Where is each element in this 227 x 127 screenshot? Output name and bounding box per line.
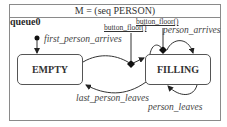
choice-diamond-1 (127, 60, 135, 68)
initial-state-dot (35, 36, 40, 41)
label-person-leaves: person_leaves (148, 102, 202, 112)
state-filling: FILLING (145, 54, 211, 85)
label-last-person-leaves: last_person_leaves (76, 93, 149, 103)
label-first-person-arrives: first_person_arrives (44, 34, 122, 44)
label-person-arrives: person_arrives (163, 25, 221, 35)
initial-queue-label: queue0 (10, 16, 41, 27)
state-empty: EMPTY (17, 54, 83, 85)
